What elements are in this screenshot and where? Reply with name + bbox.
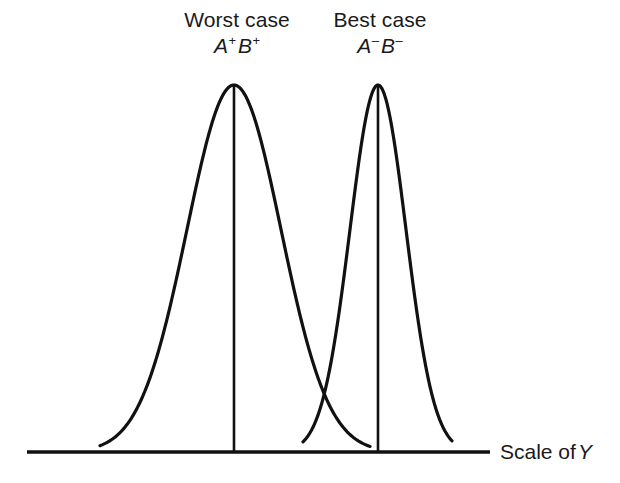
curves-group [100,85,452,446]
best-factor-b-sign: – [395,33,403,48]
label-worst-case: Worst case A+B+ [184,8,290,57]
label-worst-case-code: A+B+ [184,34,290,58]
axis-label-text: Scale of [500,440,576,463]
axis-label-scale-of-y: Scale ofY [500,440,592,464]
label-best-case-title: Best case [333,8,426,32]
worst-factor-b: B [238,34,252,57]
normal-curves-figure: Worst case A+B+ Best case A–B– Scale ofY [0,0,620,483]
worst-factor-a-sign: + [228,33,236,48]
best-factor-a-sign: – [371,33,379,48]
best-factor-b: B [381,34,395,57]
best-factor-a: A [357,34,371,57]
distribution-plot [0,0,620,483]
label-best-case-code: A–B– [333,34,426,58]
axis-label-variable: Y [576,440,592,463]
label-best-case: Best case A–B– [333,8,426,57]
label-worst-case-title: Worst case [184,8,290,32]
worst-factor-b-sign: + [252,33,260,48]
center-lines-group [234,85,378,452]
worst-factor-a: A [214,34,228,57]
